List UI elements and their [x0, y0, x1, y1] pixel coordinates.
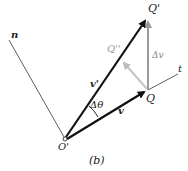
- t-axis-label: t: [178, 63, 182, 74]
- v-prime-vector: [66, 21, 145, 137]
- delta-theta-label: Δθ: [90, 99, 103, 110]
- q-double-prime-vector: [124, 63, 147, 89]
- t-axis-line: [148, 74, 178, 90]
- origin-label: O': [58, 141, 69, 152]
- point-q-label: Q: [146, 92, 155, 105]
- point-q-prime-label: Q': [148, 2, 160, 15]
- v-label: v: [118, 105, 124, 116]
- delta-v-label: Δv: [152, 50, 164, 60]
- v-vector: [67, 92, 144, 139]
- n-axis-line: [9, 40, 64, 137]
- v-prime-label: v': [90, 78, 99, 89]
- n-axis-label: n: [11, 29, 18, 40]
- point-q-double-prime-label: Q'': [107, 43, 121, 54]
- figure-caption: (b): [89, 154, 105, 167]
